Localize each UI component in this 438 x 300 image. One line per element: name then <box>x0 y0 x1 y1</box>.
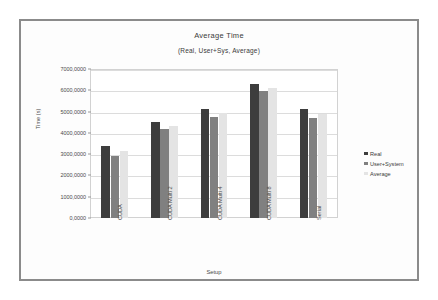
y-axis-tick-label: 4000,0000 <box>61 130 86 136</box>
x-axis-tick-label: CUDA Multi 2 <box>167 186 173 220</box>
chart-legend: RealUser+SystemAverage <box>364 149 420 179</box>
x-axis-tick-label: CUDA Multi 8 <box>266 186 272 220</box>
x-axis-title: Setup <box>90 269 338 275</box>
legend-swatch-icon <box>364 152 368 156</box>
bar <box>309 118 318 218</box>
y-axis-tick-label: 1000,0000 <box>61 194 86 200</box>
y-axis-tick-mark <box>88 69 91 70</box>
bar-group <box>239 69 289 218</box>
bar-group <box>288 69 338 218</box>
legend-item: Real <box>364 149 420 158</box>
legend-item: User+System <box>364 159 420 168</box>
bars-layer <box>90 69 338 218</box>
y-axis-tick-mark <box>88 196 91 197</box>
legend-label: User+System <box>370 161 404 167</box>
chart-frame: Average Time (Real, User+Sys, Average) T… <box>19 19 419 281</box>
x-axis-tick-labels: CUDACUDA Multi 2CUDA Multi 4CUDA Multi 8… <box>90 218 338 270</box>
legend-swatch-icon <box>364 162 368 166</box>
y-axis-title: Time (s) <box>35 109 41 129</box>
y-axis-tick-mark <box>88 111 91 112</box>
y-axis-tick-label: 7000,0000 <box>61 66 86 72</box>
y-axis-tick-mark <box>88 90 91 91</box>
chart-subtitle: (Real, User+Sys, Average) <box>21 47 417 54</box>
y-axis-tick-label: 0,0000 <box>70 215 87 221</box>
bar <box>318 114 327 218</box>
bar-group <box>189 69 239 218</box>
legend-item: Average <box>364 169 420 178</box>
x-axis-tick-label: CUDA Multi 4 <box>217 186 223 220</box>
y-axis-tick-mark <box>88 218 91 219</box>
bar <box>250 84 259 218</box>
y-axis-tick-mark <box>88 154 91 155</box>
bar <box>201 109 210 218</box>
y-axis-tick-labels: 0,00001000,00002000,00003000,00004000,00… <box>45 69 88 218</box>
bar-group <box>140 69 190 218</box>
bar <box>300 109 309 218</box>
x-axis-tick-label: Serial <box>316 206 322 220</box>
bar-group <box>90 69 140 218</box>
y-axis-tick-label: 2000,0000 <box>61 172 86 178</box>
y-axis-tick-label: 6000,0000 <box>61 87 86 93</box>
x-axis-tick-label: CUDA <box>117 204 123 220</box>
y-axis-tick-label: 5000,0000 <box>61 109 86 115</box>
y-axis-tick-mark <box>88 175 91 176</box>
chart-title: Average Time <box>21 31 417 40</box>
legend-label: Real <box>370 151 382 157</box>
y-axis-tick-mark <box>88 132 91 133</box>
bar <box>101 146 110 218</box>
legend-swatch-icon <box>364 172 368 176</box>
y-axis-tick-label: 3000,0000 <box>61 151 86 157</box>
legend-label: Average <box>370 171 391 177</box>
bar <box>151 122 160 218</box>
